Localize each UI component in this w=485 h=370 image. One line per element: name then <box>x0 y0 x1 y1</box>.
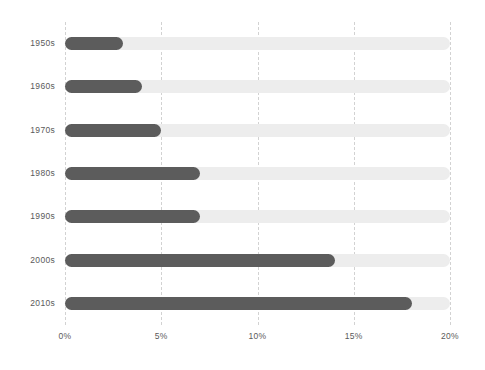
bar-1950s[interactable] <box>65 37 123 50</box>
bar-row <box>65 37 450 50</box>
y-axis-labels: 1950s1960s1970s1980s1990s2000s2010s <box>0 22 55 325</box>
y-axis-label-1990s: 1990s <box>5 210 55 223</box>
bar-row <box>65 80 450 93</box>
x-axis-label-20: 20% <box>430 331 470 341</box>
gridline-20 <box>450 22 451 325</box>
bar-row <box>65 297 450 310</box>
bar-2000s[interactable] <box>65 254 335 267</box>
y-axis-label-1960s: 1960s <box>5 80 55 93</box>
chart-container: 1950s1960s1970s1980s1990s2000s2010s 0%5%… <box>0 0 485 370</box>
plot-area <box>65 22 450 325</box>
bar-1990s[interactable] <box>65 210 200 223</box>
x-axis-label-5: 5% <box>141 331 181 341</box>
bar-row <box>65 167 450 180</box>
x-axis-label-0: 0% <box>45 331 85 341</box>
y-axis-label-1980s: 1980s <box>5 167 55 180</box>
bar-1960s[interactable] <box>65 80 142 93</box>
bar-row <box>65 124 450 137</box>
bar-2010s[interactable] <box>65 297 412 310</box>
x-axis-label-10: 10% <box>238 331 278 341</box>
x-axis-label-15: 15% <box>334 331 374 341</box>
y-axis-label-2000s: 2000s <box>5 254 55 267</box>
y-axis-label-1950s: 1950s <box>5 37 55 50</box>
bar-row <box>65 254 450 267</box>
bar-row <box>65 210 450 223</box>
y-axis-label-1970s: 1970s <box>5 124 55 137</box>
x-axis-labels: 0%5%10%15%20% <box>0 331 485 351</box>
bar-1970s[interactable] <box>65 124 161 137</box>
bar-1980s[interactable] <box>65 167 200 180</box>
bar-track <box>65 37 450 50</box>
y-axis-label-2010s: 2010s <box>5 297 55 310</box>
